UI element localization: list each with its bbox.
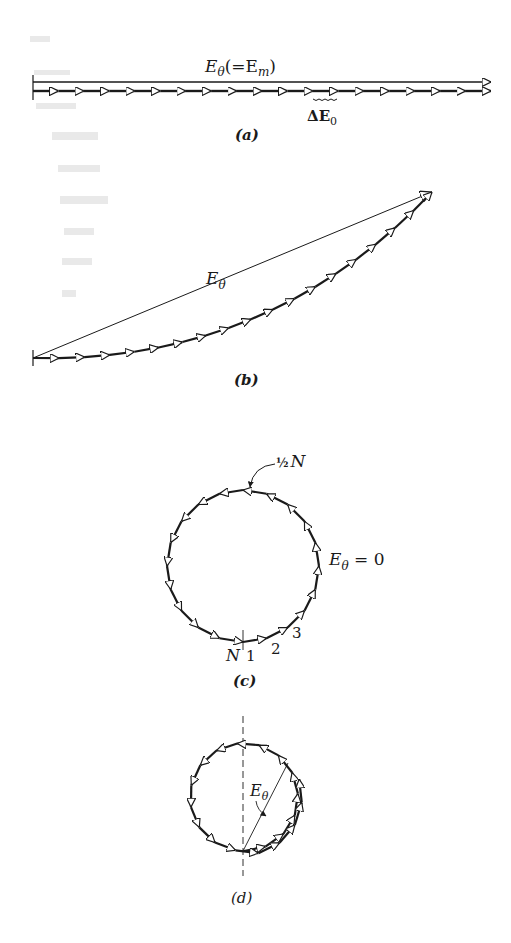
phasor-element <box>315 543 319 566</box>
phasor-element <box>159 342 183 347</box>
panel-b: Eθ (b) <box>33 192 432 389</box>
panel-caption: (d) <box>231 889 252 907</box>
phasor-circle <box>191 743 302 853</box>
phasor-element <box>294 287 315 299</box>
element-brace <box>313 99 337 101</box>
phasor-element <box>199 827 215 842</box>
half-n-label: ½N <box>276 451 307 471</box>
phasor-circle <box>167 490 319 642</box>
resultant-label: Eθ <box>249 781 269 803</box>
phasor-element <box>243 638 266 642</box>
phasor-element <box>304 521 315 542</box>
phasor-element <box>85 355 110 357</box>
phasor-element <box>278 755 292 772</box>
start-label-n: N <box>225 646 241 665</box>
bleed-through-marks <box>30 36 108 297</box>
resultant-label: Eθ(=Em) <box>204 56 276 79</box>
half-n-pointer <box>250 464 275 487</box>
phasor-element <box>167 543 171 566</box>
phasor-element <box>229 319 251 328</box>
phasor-element <box>414 192 432 211</box>
phasor-element <box>220 490 243 494</box>
panel-caption: (c) <box>233 672 256 690</box>
phasor-element <box>206 328 229 336</box>
phasor-element <box>171 589 182 610</box>
phasor-element <box>236 850 259 853</box>
phasor-element <box>251 310 273 320</box>
phasor-element <box>191 807 199 827</box>
phasor-element <box>295 794 298 816</box>
phasor-element <box>237 743 259 745</box>
phasor-element <box>217 743 238 750</box>
phasor-element <box>182 611 199 628</box>
phasor-element <box>191 765 200 785</box>
phasor-element <box>167 566 171 589</box>
phasor-element <box>292 772 298 793</box>
phasor-element <box>200 751 216 766</box>
phasor-element <box>266 627 287 638</box>
panel-d: Eθ (d) <box>191 716 302 907</box>
element-label: ΔE0 <box>307 107 337 128</box>
phasor-element <box>273 299 294 310</box>
phasor-element <box>243 490 266 494</box>
phasor-element <box>182 336 205 342</box>
phasor-element <box>259 745 278 755</box>
phasor-element <box>171 521 182 542</box>
phasor-element <box>182 505 199 522</box>
phasor-element <box>356 244 376 259</box>
phasor-element <box>315 566 319 589</box>
phasor-element <box>110 352 135 355</box>
resultant-chord <box>243 763 288 851</box>
phasor-element <box>215 843 235 851</box>
phasor-element <box>134 347 158 351</box>
phasor-diagram: Eθ(=Em) ΔE0 (a) Eθ (b) ½N Eθ = 0 N 1 2 3… <box>0 0 511 943</box>
phasor-element <box>376 228 395 244</box>
phasor-element <box>315 274 336 287</box>
phasor-element <box>288 505 305 522</box>
phasor-element <box>220 638 243 642</box>
resultant-vector <box>33 192 432 358</box>
phasor-element <box>198 494 219 505</box>
panel-c: ½N Eθ = 0 N 1 2 3 (c) <box>167 451 385 690</box>
panel-a: Eθ(=Em) ΔE0 (a) <box>33 56 491 144</box>
index-label-1: 1 <box>246 647 256 665</box>
phasor-element <box>336 260 356 274</box>
phasor-element <box>59 357 85 358</box>
phasor-element <box>304 589 315 610</box>
panel-caption: (b) <box>234 371 259 389</box>
phasor-element <box>395 211 414 228</box>
index-label-2: 2 <box>271 640 281 658</box>
panel-caption: (a) <box>235 126 259 144</box>
phasor-element <box>266 494 287 505</box>
index-label-3: 3 <box>292 624 302 642</box>
resultant-label: Eθ <box>205 268 226 292</box>
result-zero-label: Eθ = 0 <box>328 549 385 573</box>
phasor-element <box>198 627 219 638</box>
phasor-element <box>299 779 302 802</box>
